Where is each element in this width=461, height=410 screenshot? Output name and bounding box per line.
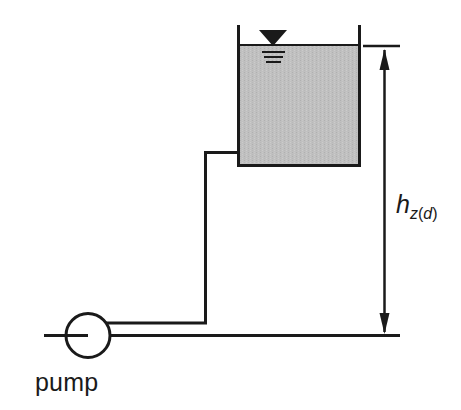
head-subscript-close-paren: ) [432, 205, 437, 222]
tank-liquid-texture [238, 45, 360, 166]
head-subscript-z: z [409, 205, 418, 222]
head-symbol-h: h [396, 190, 410, 218]
pump-symbol[interactable] [66, 314, 110, 358]
tank [237, 25, 361, 167]
pump-label: pump [35, 368, 98, 396]
diagram-canvas: hz(d) pump [0, 0, 461, 410]
pump-static-head-diagram: hz(d) pump [0, 0, 461, 410]
